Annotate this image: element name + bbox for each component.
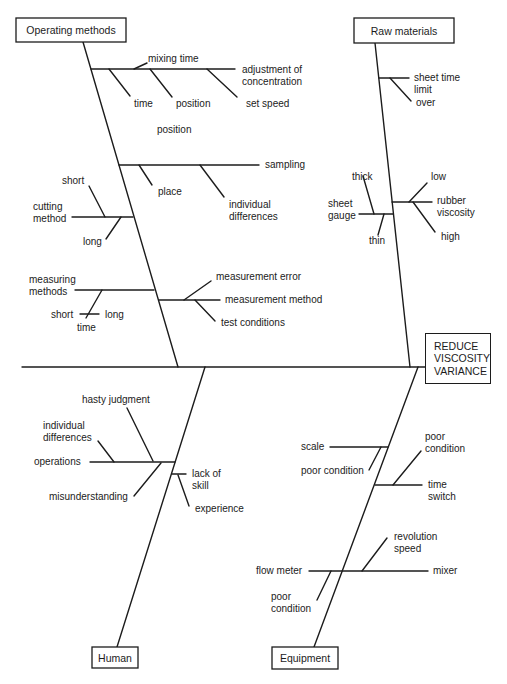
cause-long-2: long: [105, 309, 124, 321]
twig-mixing-time: [134, 63, 147, 69]
twig-long: [106, 217, 121, 239]
twig-misunderstanding: [134, 463, 161, 496]
cause-short: short: [62, 175, 84, 187]
cause-revolution-speed: revolution speed: [394, 531, 437, 555]
cause-lack-of-skill: lack of skill: [192, 468, 221, 492]
cause-sheet-time-limit: sheet time limit: [414, 72, 460, 96]
cause-place: place: [158, 186, 182, 198]
twig-over: [390, 78, 411, 101]
twig-low: [409, 183, 427, 202]
bone-operating-methods: [83, 42, 178, 367]
cause-adjustment-of-concentration: adjustment of concentration: [242, 64, 302, 88]
cause-poor-condition-b: poor condition: [425, 431, 465, 455]
twig-position: [150, 69, 172, 97]
cause-long: long: [83, 236, 102, 248]
twig-high: [413, 202, 435, 232]
bone-human: [117, 367, 205, 647]
category-raw-materials: Raw materials: [354, 18, 454, 43]
twig-short: [89, 186, 105, 217]
cause-time: time: [134, 98, 153, 110]
twig-poor-condition-a: [369, 447, 381, 470]
twig-individual-differences: [200, 165, 224, 197]
twig-test-conditions: [195, 300, 215, 321]
cause-sheet-gauge: sheet gauge: [328, 198, 356, 222]
cause-poor-condition-c: poor condition: [271, 591, 311, 615]
effect-box: REDUCE VISCOSITY VARIANCE: [425, 333, 491, 384]
cause-measurement-error: measurement error: [216, 271, 301, 283]
cause-low: low: [431, 171, 446, 183]
cause-operations: operations: [34, 456, 81, 468]
cause-hasty-judgment: hasty judgment: [82, 394, 150, 406]
twig-thin: [378, 214, 384, 235]
twig-place: [139, 165, 152, 185]
cause-thin: thin: [369, 235, 385, 247]
cause-short-2: short: [51, 309, 73, 321]
cause-flow-meter: flow meter: [256, 565, 302, 577]
twig-poor-condition-c: [317, 571, 331, 600]
cause-misunderstanding: misunderstanding: [49, 491, 128, 503]
twig-hasty-judgment: [127, 408, 153, 461]
cause-over: over: [416, 97, 435, 109]
twig-poor-condition-b: [393, 451, 421, 485]
cause-thick: thick: [352, 171, 373, 183]
cause-mixer: mixer: [433, 565, 457, 577]
twig-experience: [178, 475, 189, 506]
twig-individual-differences-h: [98, 441, 114, 462]
cause-test-conditions: test conditions: [221, 317, 285, 329]
cause-sampling: sampling: [265, 159, 305, 171]
cause-poor-condition-a: poor condition: [301, 465, 364, 477]
twig-time: [109, 69, 130, 96]
category-operating-methods: Operating methods: [16, 18, 126, 42]
cause-rubber-viscosity: rubber viscosity: [437, 195, 475, 219]
cause-set-speed: set speed: [246, 98, 289, 110]
category-equipment: Equipment: [272, 647, 338, 669]
cause-time-2: time: [77, 322, 96, 334]
twig-revolution-speed: [362, 538, 387, 571]
cause-individual-differences: individual differences: [229, 199, 278, 223]
cause-measuring-methods: measuring methods: [29, 274, 76, 298]
bone-raw-materials: [375, 43, 410, 367]
cause-time-switch: time switch: [428, 479, 456, 503]
cause-experience: experience: [195, 503, 244, 515]
cause-scale: scale: [301, 441, 324, 453]
cause-high: high: [441, 231, 460, 243]
cause-cutting-method: cutting method: [33, 201, 66, 225]
cause-individual-differences-h: individual differences: [43, 420, 92, 444]
bone-equipment: [314, 367, 418, 647]
twig-set-speed: [207, 69, 237, 97]
cause-position-b: position: [157, 124, 191, 136]
cause-mixing-time: mixing time: [148, 53, 199, 65]
cause-measurement-method: measurement method: [225, 294, 322, 306]
cause-position: position: [176, 98, 210, 110]
twig-measurement-error: [184, 281, 211, 300]
fishbone-diagram: Operating methods Raw materials Human Eq…: [0, 0, 507, 684]
category-human: Human: [92, 647, 138, 668]
